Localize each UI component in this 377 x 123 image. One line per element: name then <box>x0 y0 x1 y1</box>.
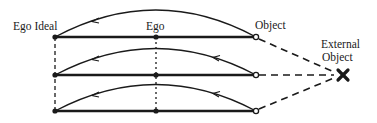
row-3-ego-ideal-node <box>52 108 57 113</box>
row-2-ego-ideal-node <box>52 72 57 77</box>
external-object-label-line1: External <box>321 38 360 50</box>
row-1-ego-node <box>153 34 158 39</box>
object-label: Object <box>255 19 286 32</box>
row-1-ego-ideal-node <box>52 34 57 39</box>
row-3-ego-node <box>153 108 158 113</box>
external-object-label-line2: Object <box>322 51 353 64</box>
row-2-ego-node <box>153 72 158 77</box>
row-2-object-node <box>253 72 258 77</box>
external-object-x-icon <box>338 70 348 80</box>
ego-ideal-diagram: Ego Ideal Ego Object External Object <box>0 0 377 123</box>
row-1-object-node <box>253 34 258 39</box>
row-1-arc-arrow-icon <box>92 18 99 23</box>
dashed-link-row-3 <box>259 78 334 109</box>
ego-label: Ego <box>146 20 165 33</box>
row-3-object-node <box>253 108 258 113</box>
ego-ideal-label: Ego Ideal <box>13 20 57 33</box>
